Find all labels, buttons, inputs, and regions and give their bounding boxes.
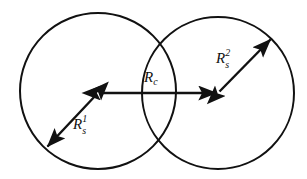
right-radius-label-sub: s [225,59,229,70]
right-radius-label-base: R [215,50,225,66]
diagram-canvas: Rc R1s R2s [0,0,307,179]
left-radius-label-base: R [72,116,82,132]
overlapping-circles-figure: Rc R1s R2s [0,0,307,179]
left-radius-label-sub: s [82,125,86,136]
left-radius-label-sup: 1 [82,113,87,124]
right-radius-label-sup: 2 [225,47,230,58]
background [0,0,307,179]
center-distance-label-base: R [143,69,153,85]
center-distance-label-sub: c [153,76,158,87]
